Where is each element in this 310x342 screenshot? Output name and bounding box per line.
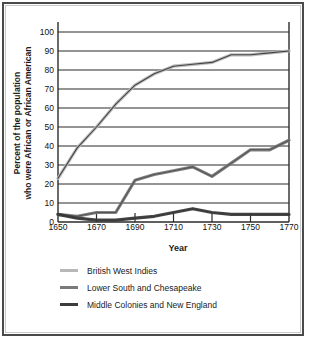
y-tick-label: 50: [32, 123, 54, 131]
x-tick-label: 1710: [159, 222, 189, 232]
y-tick-label: 60: [32, 104, 54, 112]
y-tick-label: 90: [32, 47, 54, 55]
y-tick-label: 20: [32, 180, 54, 188]
line-chart: Percent of the population who were Afric…: [0, 0, 310, 342]
x-tick-label: 1750: [236, 222, 266, 232]
y-tick-label: 70: [32, 85, 54, 93]
x-tick-label: 1690: [120, 222, 150, 232]
y-tick-label: 100: [32, 28, 54, 36]
series-line-core-1: [58, 140, 289, 216]
y-tick-label: 10: [32, 199, 54, 207]
series-line-1: [58, 140, 289, 216]
x-tick-label: 1650: [43, 222, 73, 232]
y-tick-label: 80: [32, 66, 54, 74]
x-axis-title: Year: [58, 243, 298, 253]
y-axis-tick-labels: 1009080706050403020100: [30, 0, 54, 230]
legend-label: British West Indies: [87, 266, 157, 276]
y-axis-title-line1: Percent of the population: [12, 72, 22, 174]
x-tick-label: 1770: [274, 222, 304, 232]
legend-label: Middle Colonies and New England: [87, 300, 217, 310]
legend-item[interactable]: Lower South and Chesapeake: [60, 279, 300, 296]
x-tick-label: 1730: [197, 222, 227, 232]
y-tick-label: 40: [32, 142, 54, 150]
legend-swatch-icon: [60, 303, 78, 306]
legend-item[interactable]: British West Indies: [60, 262, 300, 279]
legend-label: Lower South and Chesapeake: [87, 283, 201, 293]
x-tick-label: 1670: [82, 222, 112, 232]
legend-swatch-icon: [60, 286, 78, 289]
chart-legend: British West IndiesLower South and Chesa…: [60, 262, 300, 313]
legend-item[interactable]: Middle Colonies and New England: [60, 296, 300, 313]
x-axis-tick-labels: 1650167016901710173017501770: [0, 222, 310, 236]
y-tick-label: 30: [32, 161, 54, 169]
legend-swatch-icon: [60, 269, 78, 272]
